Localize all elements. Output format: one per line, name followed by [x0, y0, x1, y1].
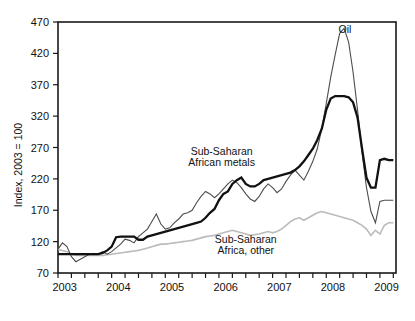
y-tick-label: 320 — [31, 110, 49, 122]
x-tick-label: 2009 — [374, 281, 398, 293]
x-tick-label: 2004 — [106, 281, 130, 293]
series-annotation-label: African metals — [188, 156, 255, 168]
x-axis-tick-labels: 2003200420052006200720082009 — [52, 281, 398, 293]
y-tick-label: 70 — [37, 267, 49, 279]
x-tick-label: 2006 — [213, 281, 237, 293]
y-axis-title: Index, 2003 = 100 — [12, 123, 24, 208]
y-tick-label: 370 — [31, 79, 49, 91]
x-tick-label: 2003 — [52, 281, 76, 293]
x-tick-label: 2007 — [267, 281, 291, 293]
series-line — [58, 96, 393, 254]
y-tick-label: 420 — [31, 47, 49, 59]
series-annotation-label: Oil — [339, 23, 352, 35]
series-annotations: OilSub-SaharanAfrican metalsSub-SaharanA… — [188, 23, 351, 255]
y-tick-label: 470 — [31, 16, 49, 28]
y-tick-label: 120 — [31, 236, 49, 248]
y-tick-label: 170 — [31, 204, 49, 216]
y-tick-label: 220 — [31, 173, 49, 185]
series-annotation-label: Sub-Saharan — [191, 145, 253, 157]
y-tick-label: 270 — [31, 142, 49, 154]
line-chart: 70120170220270320370420470 2003200420052… — [0, 0, 415, 321]
x-tick-label: 2005 — [160, 281, 184, 293]
series-annotation-label: Africa, other — [217, 244, 274, 256]
chart-container: 70120170220270320370420470 2003200420052… — [0, 0, 415, 321]
x-tick-label: 2008 — [321, 281, 345, 293]
y-axis-tick-labels: 70120170220270320370420470 — [31, 16, 49, 279]
